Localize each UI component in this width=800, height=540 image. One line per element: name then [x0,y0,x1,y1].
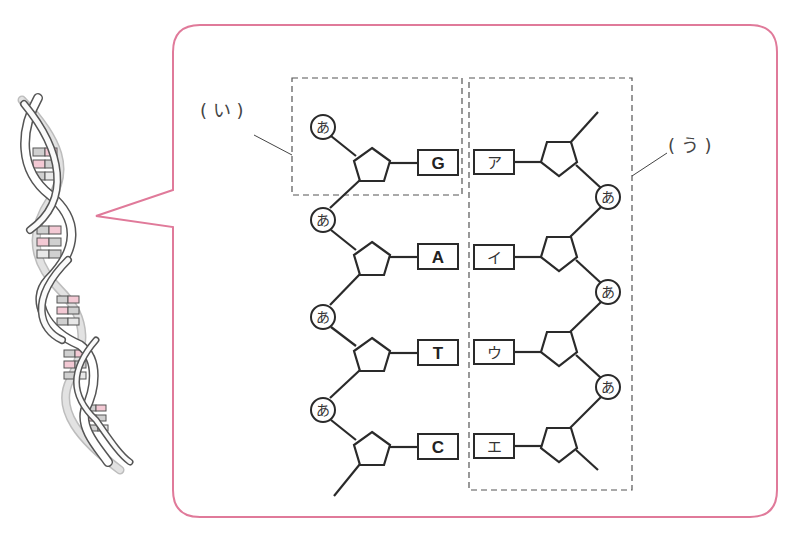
base-box-left: C [418,434,458,459]
svg-text:あ: あ [601,284,615,300]
svg-text:A: A [432,248,444,267]
label-strand: ( う ) [668,135,712,156]
svg-text:あ: あ [316,119,330,135]
base-box-left: G [418,150,458,175]
svg-text:ウ: ウ [487,344,502,362]
phosphate: あ [311,208,335,232]
svg-text:C: C [432,438,444,457]
base-box-right: イ [474,245,514,269]
svg-text:エ: エ [487,438,502,456]
phosphate: あ [596,375,620,399]
base-box-right: エ [474,434,514,458]
svg-text:あ: あ [316,309,330,325]
base-box-right: ウ [474,340,514,364]
phosphate: あ [596,280,620,304]
base-box-right: ア [474,150,514,174]
svg-text:G: G [431,154,444,173]
svg-text:イ: イ [487,249,502,267]
phosphate: あ [311,115,335,139]
svg-text:あ: あ [316,212,330,228]
label-nucleotide: ( い ) [200,100,244,121]
svg-text:T: T [433,344,444,363]
base-box-left: T [418,340,458,365]
svg-text:あ: あ [316,402,330,418]
phosphate: あ [596,185,620,209]
svg-text:ア: ア [487,154,502,172]
phosphate: あ [311,398,335,422]
base-box-left: A [418,244,458,269]
svg-text:あ: あ [601,379,615,395]
dna-helix-illustration [22,98,130,470]
dna-structure-diagram: ( い ) ( う ) あ あ あ あ [0,0,800,540]
svg-text:あ: あ [601,189,615,205]
phosphate: あ [311,305,335,329]
